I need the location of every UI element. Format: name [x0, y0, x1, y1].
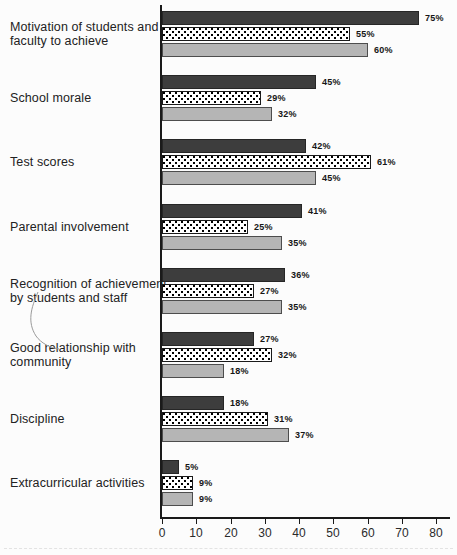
x-tick-mark	[196, 519, 197, 524]
x-tick-mark	[265, 519, 266, 524]
light-gray-bar	[162, 364, 224, 378]
light-gray-bar	[162, 171, 316, 185]
value-label: 55%	[356, 29, 375, 39]
x-tick-mark	[436, 519, 437, 524]
x-tick-mark	[368, 519, 369, 524]
x-tick-mark	[162, 519, 163, 524]
light-gray-bar	[162, 428, 289, 442]
x-tick-mark	[231, 519, 232, 524]
x-tick-label: 10	[183, 526, 209, 540]
dark-solid-bar	[162, 11, 419, 25]
dotted-pattern-bar	[162, 91, 261, 105]
dark-solid-bar	[162, 204, 302, 218]
light-gray-bar	[162, 300, 282, 314]
value-label: 37%	[295, 430, 314, 440]
x-tick-label: 30	[252, 526, 278, 540]
dark-solid-bar	[162, 460, 179, 474]
category-label: Extracurricular activities	[10, 460, 170, 506]
dotted-pattern-bar	[162, 412, 268, 426]
value-label: 9%	[199, 478, 212, 488]
value-label: 9%	[199, 494, 212, 504]
value-label: 35%	[288, 302, 307, 312]
category-label: Recognition of achievement by students a…	[10, 268, 170, 314]
x-tick-mark	[402, 519, 403, 524]
value-label: 32%	[278, 109, 297, 119]
value-label: 18%	[230, 366, 249, 376]
x-tick-label: 70	[389, 526, 415, 540]
category-label: School morale	[10, 75, 170, 121]
dark-solid-bar	[162, 332, 254, 346]
dotted-pattern-bar	[162, 220, 248, 234]
value-label: 75%	[425, 13, 444, 23]
value-label: 45%	[322, 173, 341, 183]
value-label: 32%	[278, 350, 297, 360]
value-label: 31%	[274, 414, 293, 424]
light-gray-bar	[162, 43, 368, 57]
dark-solid-bar	[162, 75, 316, 89]
x-tick-mark	[333, 519, 334, 524]
dark-solid-bar	[162, 268, 285, 282]
value-label: 25%	[254, 222, 273, 232]
value-label: 18%	[230, 398, 249, 408]
x-tick-label: 80	[423, 526, 449, 540]
x-axis-line	[160, 517, 450, 519]
category-label: Motivation of students and faculty to ac…	[10, 11, 170, 57]
light-gray-bar	[162, 236, 282, 250]
value-label: 27%	[260, 334, 279, 344]
x-tick-label: 50	[320, 526, 346, 540]
value-label: 45%	[322, 77, 341, 87]
category-label: Parental involvement	[10, 204, 170, 250]
value-label: 36%	[291, 270, 310, 280]
value-label: 27%	[260, 286, 279, 296]
x-tick-mark	[299, 519, 300, 524]
value-label: 42%	[312, 141, 331, 151]
value-label: 60%	[374, 45, 393, 55]
category-label: Discipline	[10, 396, 170, 442]
x-tick-label: 40	[286, 526, 312, 540]
dotted-pattern-bar	[162, 476, 193, 490]
category-label: Test scores	[10, 139, 170, 185]
x-tick-label: 20	[218, 526, 244, 540]
scan-artifact-line	[4, 548, 453, 549]
light-gray-bar	[162, 107, 272, 121]
category-label: Good relationship with community	[10, 332, 170, 378]
value-label: 35%	[288, 238, 307, 248]
value-label: 41%	[308, 206, 327, 216]
light-gray-bar	[162, 492, 193, 506]
dotted-pattern-bar	[162, 284, 254, 298]
value-label: 61%	[377, 157, 396, 167]
x-tick-label: 60	[355, 526, 381, 540]
dotted-pattern-bar	[162, 27, 350, 41]
value-label: 5%	[185, 462, 198, 472]
value-label: 29%	[267, 93, 286, 103]
dotted-pattern-bar	[162, 155, 371, 169]
dark-solid-bar	[162, 139, 306, 153]
dotted-pattern-bar	[162, 348, 272, 362]
x-tick-label: 0	[149, 526, 175, 540]
dark-solid-bar	[162, 396, 224, 410]
bar-chart: Motivation of students and faculty to ac…	[0, 0, 457, 555]
